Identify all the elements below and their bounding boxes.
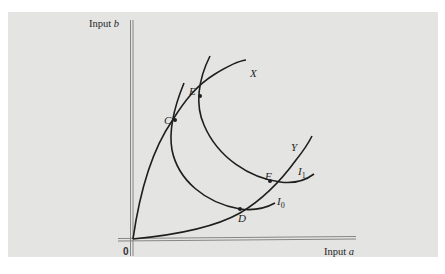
y-axis	[131, 20, 134, 256]
x-axis-label: Input a	[324, 247, 354, 258]
x-axis-label-var: a	[349, 246, 354, 257]
ray-x-label: X	[250, 68, 257, 79]
isoquant-i0-curve	[171, 83, 275, 210]
isoquant-i0-sub: 0	[281, 201, 285, 210]
isoquant-i1-label: I1	[298, 166, 306, 180]
x-axis-label-text: Input	[324, 246, 346, 257]
point-d-dot	[238, 207, 242, 211]
isoquant-i0-label: I0	[277, 196, 285, 210]
ray-y-curve	[133, 136, 312, 239]
y-axis-label-text: Input	[89, 18, 111, 29]
point-f-label: F	[265, 171, 272, 182]
point-e-label: E	[189, 86, 196, 97]
point-e-dot	[198, 94, 202, 98]
y-axis-label-var: b	[114, 18, 119, 29]
ray-y-label: Y	[291, 142, 297, 153]
point-d-label: D	[238, 213, 246, 224]
y-axis-label: Input b	[89, 19, 119, 30]
origin-label: 0	[123, 247, 129, 257]
isoquant-i1-sub: 1	[302, 171, 306, 180]
point-c-dot	[173, 118, 177, 122]
isoquant-diagram	[0, 0, 445, 274]
point-c-label: C	[164, 115, 171, 126]
